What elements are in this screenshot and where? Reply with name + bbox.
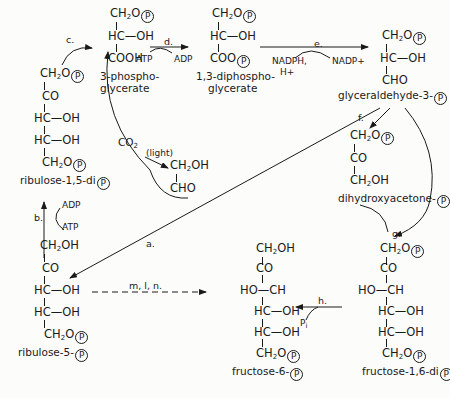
cofactor-adp-b: ADP: [62, 200, 81, 210]
enzyme-label-h: h.: [318, 295, 327, 306]
enzyme-label-c: c.: [66, 34, 74, 45]
cofactor-co2: CO2: [118, 136, 138, 148]
cofactor-adp-d: ADP: [174, 54, 193, 64]
enzyme-label-f: f.: [358, 112, 364, 123]
arrow-f: [370, 108, 390, 128]
enzyme-label-g: g.: [392, 228, 401, 239]
label-3-phosphoglycerate: 3-phospho-: [100, 70, 159, 82]
arrow-g: [395, 108, 432, 236]
enzyme-label-b: b.: [34, 212, 43, 223]
cofactor-hplus: H+: [280, 67, 294, 77]
enzyme-label-e: e.: [314, 38, 323, 49]
cofactor-atp-b: ATP: [62, 222, 78, 232]
cofactor-pi: Pi: [300, 318, 307, 328]
cofactor-atp-d: ATP: [136, 54, 152, 64]
arrow-co2: [145, 157, 168, 168]
enzyme-label-a: a.: [146, 238, 155, 249]
enzyme-label-d: d.: [164, 36, 173, 47]
cofactor-nadph: NADPH,: [272, 56, 307, 66]
arrow-a: [70, 108, 380, 278]
arrow-c: [62, 48, 92, 65]
enzyme-label-mln: m, l, n.: [129, 280, 162, 291]
label-light: (light): [146, 148, 173, 158]
cofactor-nadp: NADP+: [332, 56, 365, 66]
